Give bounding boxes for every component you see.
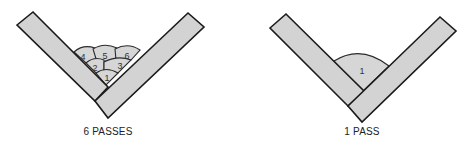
- caption-1-pass: 1 PASS: [344, 126, 379, 137]
- pass-label-6: 6: [124, 51, 129, 61]
- pass-label-1: 1: [104, 73, 109, 83]
- caption-6-passes: 6 PASSES: [83, 126, 132, 137]
- pass-label-4: 4: [80, 52, 85, 62]
- weld-diagrams: 1 2 3 4 5 6 1: [0, 0, 468, 146]
- pass-label-2: 2: [92, 63, 97, 73]
- multi-pass-fillet-weld: 1 2 3 4 5 6: [17, 12, 204, 118]
- single-pass-fillet-weld: 1: [270, 14, 456, 122]
- pass-label-3: 3: [117, 61, 122, 71]
- pass-label-single-1: 1: [359, 66, 364, 76]
- pass-label-5: 5: [102, 51, 107, 61]
